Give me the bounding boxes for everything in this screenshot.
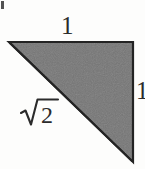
geometry-figure: 1 2 1 bbox=[0, 0, 145, 169]
side-label-right: 1 bbox=[136, 78, 145, 103]
radical-expression: 2 bbox=[20, 96, 60, 127]
radicand-value: 2 bbox=[41, 102, 53, 127]
side-label-top: 1 bbox=[61, 13, 74, 38]
side-label-hypotenuse: 2 bbox=[20, 96, 60, 131]
square-root-icon: 2 bbox=[20, 96, 60, 127]
